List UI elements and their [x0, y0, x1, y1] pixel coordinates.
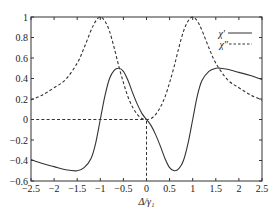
x-tick-label: 0.5 [163, 183, 176, 194]
x-tick-label: 1 [190, 183, 195, 194]
reference-lines [31, 120, 147, 182]
y-tick-label: 0.2 [16, 94, 29, 105]
y-tick-label: 0.6 [16, 53, 29, 64]
x-tick-label: −0.5 [114, 183, 132, 194]
x-tick-label: −1 [95, 183, 106, 194]
x-tick-label: 2 [236, 183, 241, 194]
legend-label-chi-prime: χ′ [217, 28, 225, 39]
legend: χ′ χ″ [217, 28, 252, 50]
y-tick-label: −0.4 [10, 155, 28, 166]
x-axis-label: Δ/γ₁ [137, 196, 154, 207]
legend-label-chi-double-prime: χ″ [218, 39, 228, 50]
y-tick-label: 0.8 [16, 32, 29, 43]
x-tick-label: 0 [144, 183, 149, 194]
x-tick-label: −1.5 [68, 183, 86, 194]
y-tick-label: 0 [23, 114, 28, 125]
x-tick-label: 1.5 [210, 183, 223, 194]
x-tick-label: 2.5 [256, 183, 269, 194]
y-tick-label: −0.2 [10, 135, 28, 146]
x-tick-label: −2 [49, 183, 60, 194]
line-chart: −2.5−2−1.5−1−0.500.511.522.5 −0.6−0.4−0.… [0, 0, 279, 216]
series-chi-double-prime-line [31, 17, 262, 120]
y-tick-label: −0.6 [10, 176, 28, 187]
y-tick-label: 0.4 [16, 73, 29, 84]
y-tick-label: 1 [23, 12, 28, 23]
chart-container: −2.5−2−1.5−1−0.500.511.522.5 −0.6−0.4−0.… [0, 0, 279, 216]
